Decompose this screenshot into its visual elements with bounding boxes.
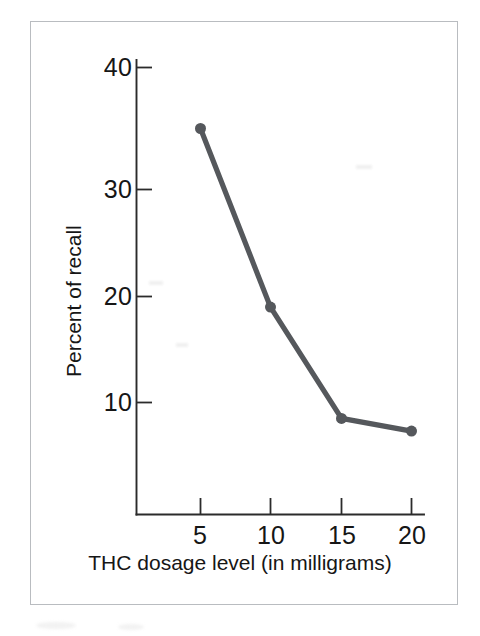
- data-point-15mg: [336, 413, 347, 424]
- data-point-5mg: [195, 123, 206, 134]
- x-tick-label-10: 10: [257, 521, 285, 550]
- data-point-20mg: [406, 426, 417, 437]
- data-point-10mg: [265, 302, 276, 313]
- scan-smudge: [118, 624, 144, 630]
- y-tick-label-20: 20: [92, 282, 132, 311]
- series-line-percent-of-recall: [201, 129, 412, 432]
- figure-root: 40 30 20 10 5 10 15 20 THC dosage level …: [0, 0, 480, 636]
- y-tick-label-10: 10: [92, 388, 132, 417]
- y-tick-label-40: 40: [92, 53, 132, 82]
- y-tick-label-30: 30: [92, 175, 132, 204]
- scan-smudge: [36, 622, 76, 629]
- x-tick-label-20: 20: [398, 521, 426, 550]
- series-markers-group: [195, 123, 417, 437]
- x-axis-title: THC dosage level (in milligrams): [0, 551, 480, 575]
- x-tick-label-5: 5: [193, 521, 207, 550]
- y-axis-title: Percent of recall: [62, 225, 86, 377]
- x-tick-label-15: 15: [328, 521, 356, 550]
